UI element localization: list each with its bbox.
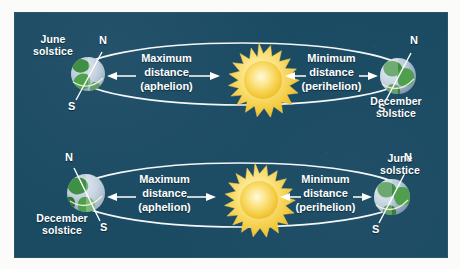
measure-min-line1: Minimum: [279, 52, 384, 66]
measure-max-line1: Maximum: [112, 173, 217, 187]
south-pole-label-left: S: [68, 100, 75, 112]
solstice-label-right-line2: solstice: [380, 164, 420, 176]
measure-max-distance: Maximum distance (aphelion): [112, 173, 217, 214]
south-pole-label-left: S: [100, 221, 107, 233]
solstice-label-left-line1: June: [41, 33, 66, 45]
north-pole-label-right: N: [410, 34, 418, 46]
measure-min-line1: Minimum: [273, 173, 378, 187]
measure-max-line2: distance: [114, 66, 219, 80]
solstice-label-left-line2: solstice: [33, 45, 73, 57]
solstice-label-left-line2: solstice: [42, 224, 82, 236]
south-pole-label-right: S: [372, 223, 379, 235]
solstice-label-left-line1: December: [36, 212, 88, 224]
measure-max-line3: (aphelion): [112, 201, 217, 215]
measure-max-line2: distance: [112, 187, 217, 201]
orbit-scene-top: June solstice December solstice N S N S …: [14, 12, 448, 135]
north-pole-label-left: N: [99, 34, 107, 46]
measure-max-line1: Maximum: [114, 52, 219, 66]
measure-max-line3: (aphelion): [114, 80, 219, 94]
measure-min-line2: distance: [273, 187, 378, 201]
measure-min-distance: Minimum distance (perihelion): [279, 52, 384, 93]
measure-max-distance: Maximum distance (aphelion): [114, 52, 219, 93]
space-background-panel: June solstice December solstice N S N S …: [14, 12, 448, 258]
north-pole-label-left: N: [65, 151, 73, 163]
orbit-scene-bottom: December solstice June solstice N S N S …: [14, 135, 448, 258]
figure-root: June solstice December solstice N S N S …: [0, 0, 460, 269]
solstice-label-left: December solstice: [18, 213, 106, 237]
measure-min-line2: distance: [279, 66, 384, 80]
earth-right: [374, 173, 411, 223]
measure-min-distance: Minimum distance (perihelion): [273, 173, 378, 214]
north-pole-label-right: N: [404, 151, 412, 163]
measure-min-line3: (perihelion): [273, 201, 378, 215]
solstice-label-left: June solstice: [22, 34, 84, 58]
measure-min-line3: (perihelion): [279, 80, 384, 94]
earth-left: [71, 52, 105, 100]
south-pole-label-right: S: [378, 102, 385, 114]
solstice-label-right: June solstice: [369, 153, 431, 177]
solstice-label-right: December solstice: [354, 96, 438, 120]
